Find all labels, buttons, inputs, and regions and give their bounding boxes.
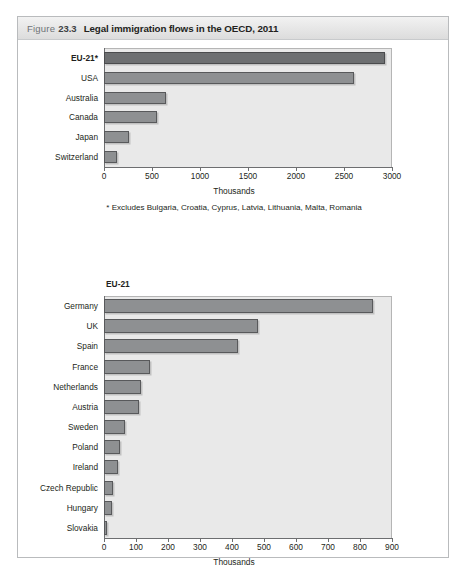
- category-label: Canada: [18, 113, 98, 121]
- bar: [104, 400, 139, 414]
- x-axis-tick-label: 100: [129, 542, 143, 552]
- category-label: Slovakia: [18, 524, 98, 532]
- category-label: UK: [18, 322, 98, 330]
- x-axis-tick-label: 400: [225, 542, 239, 552]
- bar: [104, 440, 120, 454]
- category-label: Poland: [18, 443, 98, 451]
- category-label: Hungary: [18, 504, 98, 512]
- x-axis-tick-label: 300: [193, 542, 207, 552]
- bar: [104, 92, 166, 104]
- category-label: Germany: [18, 302, 98, 310]
- category-label: Austria: [18, 403, 98, 411]
- bar: [104, 72, 354, 84]
- category-label: France: [18, 363, 98, 371]
- chart-eu21-flows: EU-21GermanyUKSpainFranceNetherlandsAust…: [18, 270, 448, 557]
- bar: [104, 131, 129, 143]
- x-axis-tick-label: 2000: [287, 171, 305, 181]
- x-axis-tick-label: 600: [289, 542, 303, 552]
- bar-row: [104, 299, 373, 313]
- plot-area: [104, 48, 392, 167]
- plot-top-border: [105, 48, 392, 49]
- x-axis-title: Thousands: [18, 557, 450, 567]
- bar: [104, 481, 113, 495]
- category-label: Switzerland: [18, 153, 98, 161]
- bar-row: [104, 501, 112, 515]
- x-axis-tick-label: 500: [145, 171, 159, 181]
- category-label: Japan: [18, 133, 98, 141]
- series-header: EU-21: [106, 279, 130, 289]
- category-label: Sweden: [18, 423, 98, 431]
- bar-row: [104, 481, 113, 495]
- bar-row: [104, 131, 129, 143]
- figure-number: 23.3: [58, 23, 77, 34]
- bar: [104, 339, 238, 353]
- x-axis-tick-label: 200: [161, 542, 175, 552]
- bar-row: [104, 360, 150, 374]
- plot-right-border: [391, 296, 392, 538]
- x-axis-line: [104, 538, 392, 539]
- x-axis-tick-label: 0: [102, 171, 107, 181]
- x-axis-tick-label: 0: [102, 542, 107, 552]
- category-label: Australia: [18, 94, 98, 102]
- chart-area: EU-21*USAAustraliaCanadaJapanSwitzerland…: [18, 40, 450, 255]
- category-label: Spain: [18, 342, 98, 350]
- figure-body: EU-21*USAAustraliaCanadaJapanSwitzerland…: [18, 40, 448, 557]
- plot-right-border: [391, 48, 392, 167]
- figure-title: Legal immigration flows in the OECD, 201…: [84, 23, 279, 34]
- bar-row: [104, 400, 139, 414]
- bar: [104, 501, 112, 515]
- bar-row: [104, 151, 117, 163]
- bar-row: [104, 521, 107, 535]
- x-axis-tick-label: 500: [257, 542, 271, 552]
- bar: [104, 299, 373, 313]
- bar: [104, 460, 118, 474]
- x-axis-tick-label: 2500: [335, 171, 353, 181]
- bar: [104, 420, 125, 434]
- bar: [104, 52, 385, 64]
- bar: [104, 521, 107, 535]
- bar-row: [104, 319, 258, 333]
- bar-row: [104, 72, 354, 84]
- category-label: EU-21*: [18, 54, 98, 62]
- chart-oecd-flows: EU-21*USAAustraliaCanadaJapanSwitzerland…: [18, 40, 448, 255]
- x-axis-title: Thousands: [18, 186, 450, 196]
- x-axis-tick-label: 800: [353, 542, 367, 552]
- category-label: Netherlands: [18, 383, 98, 391]
- x-axis-tick-label: 900: [385, 542, 399, 552]
- x-axis-tick-label: 1500: [239, 171, 257, 181]
- plot-top-border: [105, 296, 392, 297]
- category-label: Czech Republic: [18, 484, 98, 492]
- category-label: USA: [18, 74, 98, 82]
- x-axis-tick-label: 1000: [191, 171, 209, 181]
- bar-row: [104, 420, 125, 434]
- x-axis-tick-label: 700: [321, 542, 335, 552]
- bar-row: [104, 380, 141, 394]
- bar-row: [104, 52, 385, 64]
- bar-row: [104, 460, 118, 474]
- bar-row: [104, 339, 238, 353]
- bar: [104, 380, 141, 394]
- bar-row: [104, 111, 157, 123]
- bar-row: [104, 92, 166, 104]
- bar-row: [104, 440, 120, 454]
- figure-frame: Figure 23.3 Legal immigration flows in t…: [17, 16, 449, 558]
- x-axis-tick-label: 3000: [383, 171, 401, 181]
- bar: [104, 151, 117, 163]
- bar: [104, 360, 150, 374]
- figure-header: Figure 23.3 Legal immigration flows in t…: [18, 17, 448, 40]
- figure-footnote: * Excludes Bulgaria, Croatia, Cyprus, La…: [18, 203, 450, 212]
- category-label: Ireland: [18, 463, 98, 471]
- bar: [104, 111, 157, 123]
- chart-area: EU-21GermanyUKSpainFranceNetherlandsAust…: [18, 270, 450, 557]
- figure-label-word: Figure: [27, 23, 55, 34]
- bar: [104, 319, 258, 333]
